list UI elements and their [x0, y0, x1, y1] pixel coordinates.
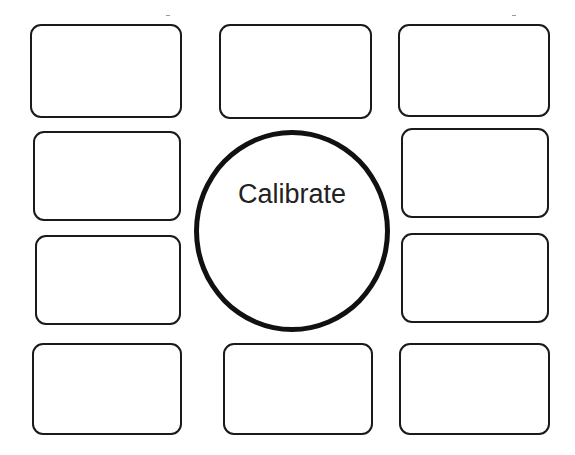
- tile-r1c2[interactable]: [219, 24, 372, 119]
- tile-r3c1[interactable]: [35, 235, 181, 325]
- tile-r2c1[interactable]: [33, 131, 181, 221]
- calibrate-button[interactable]: Calibrate: [194, 130, 390, 332]
- tile-r2c3[interactable]: [401, 128, 549, 218]
- tile-r4c1[interactable]: [32, 343, 182, 435]
- tile-r3c3[interactable]: [401, 233, 549, 323]
- marker: [166, 15, 170, 16]
- tile-r4c3[interactable]: [399, 343, 550, 435]
- tile-r1c3[interactable]: [398, 24, 550, 117]
- calibrate-label: Calibrate: [199, 179, 385, 210]
- tile-r1c1[interactable]: [30, 24, 182, 118]
- tile-r4c2[interactable]: [223, 343, 373, 435]
- marker: [512, 15, 516, 16]
